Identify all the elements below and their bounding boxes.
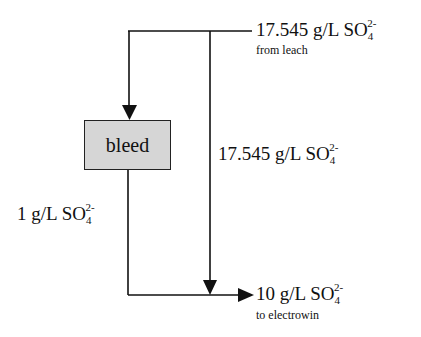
arrow-down-to-bleed-icon bbox=[122, 105, 137, 120]
flow-lines bbox=[0, 0, 421, 337]
product-destination-label: to electrowin bbox=[256, 309, 319, 321]
arrow-down-bypass-icon bbox=[203, 280, 217, 295]
arrow-right-to-electrowin-icon bbox=[238, 288, 254, 302]
bleed-node: bleed bbox=[84, 120, 171, 170]
bleed-out-stream-label: 1 g/L SO42- bbox=[17, 204, 95, 223]
bypass-stream-label: 17.545 g/L SO42- bbox=[218, 144, 338, 163]
feed-stream-label: 17.545 g/L SO42- bbox=[256, 20, 376, 39]
bleed-label: bleed bbox=[106, 134, 149, 157]
product-stream-label: 10 g/L SO42- bbox=[256, 284, 343, 303]
feed-source-label: from leach bbox=[256, 44, 308, 56]
